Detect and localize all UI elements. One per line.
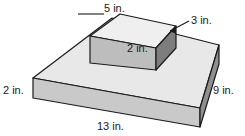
- dimension-label-prism-height: 2 in.: [127, 42, 148, 54]
- dimension-label-top-width: 5 in.: [104, 2, 125, 14]
- dimension-label-prism-depth: 3 in.: [191, 14, 212, 26]
- dimension-label-base-height: 2 in.: [3, 84, 24, 96]
- composite-solid-figure: 5 in. 3 in. 2 in. 2 in. 9 in. 13 in.: [0, 0, 245, 136]
- dimension-label-base-width: 13 in.: [97, 120, 124, 132]
- dimension-label-base-depth: 9 in.: [213, 84, 234, 96]
